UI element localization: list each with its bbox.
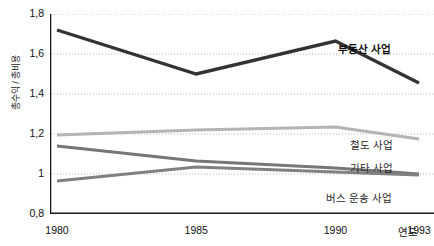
x-axis-title: 연도 [398, 224, 418, 239]
series-label: 부동산 사업 [338, 41, 391, 56]
series-label: 철도 사업 [350, 137, 393, 152]
series-label: 기타 사업 [350, 160, 393, 175]
y-axis-tick-label: 1,2 [14, 128, 44, 139]
x-axis-tick-label: 1985 [185, 224, 208, 236]
line-chart: 총수익 / 총비용 1,81,61,41,210,8 1980198519901… [0, 0, 434, 246]
x-axis-tick-label: 1980 [45, 224, 68, 236]
y-axis-tick-label: 1,8 [14, 8, 44, 19]
series-label: 버스 운송 사업 [326, 190, 392, 205]
y-axis-tick-label: 0,8 [14, 208, 44, 219]
y-axis-tick-label: 1,6 [14, 48, 44, 59]
y-axis-tick-labels: 1,81,61,41,210,8 [14, 0, 44, 246]
x-axis-tick-label: 1990 [324, 224, 347, 236]
series-line [57, 30, 419, 83]
y-axis-tick-label: 1 [14, 168, 44, 179]
y-axis-tick-label: 1,4 [14, 88, 44, 99]
